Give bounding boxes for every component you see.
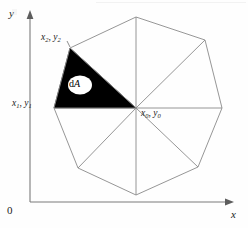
origin-label: 0: [7, 205, 13, 216]
shaded-sector-da: [54, 48, 136, 108]
vertex1-y-sub: 1: [28, 102, 31, 109]
diagram-canvas: [0, 0, 248, 228]
x-axis-label: x: [231, 209, 236, 220]
vertex2-label: x2, y2: [41, 33, 61, 43]
vertex2-y-sub: 2: [57, 36, 60, 43]
vertex1-label: x1, y1: [12, 99, 32, 109]
spoke-to-vertex-lower-left: [78, 108, 136, 168]
area-element-a: A: [74, 78, 80, 89]
scan-artifact-top: [96, 2, 246, 3]
spoke-to-vertex-upper-right: [136, 40, 205, 108]
callout-group: [67, 41, 70, 47]
callout-leader-vertex2: [67, 41, 70, 47]
area-element-label: dA: [69, 79, 80, 89]
scan-artifact-corner: [12, 9, 17, 15]
vertex0-label: x0, y0: [141, 109, 161, 119]
vertex0-y-sub: 0: [157, 112, 160, 119]
shaded-sector-group: [54, 48, 136, 108]
figure-container: y x 0 x2, y2 x1, y1 x0, y0 dA: [0, 0, 248, 228]
x-axis-arrowhead: [225, 199, 234, 206]
y-axis-arrowhead: [27, 10, 34, 19]
